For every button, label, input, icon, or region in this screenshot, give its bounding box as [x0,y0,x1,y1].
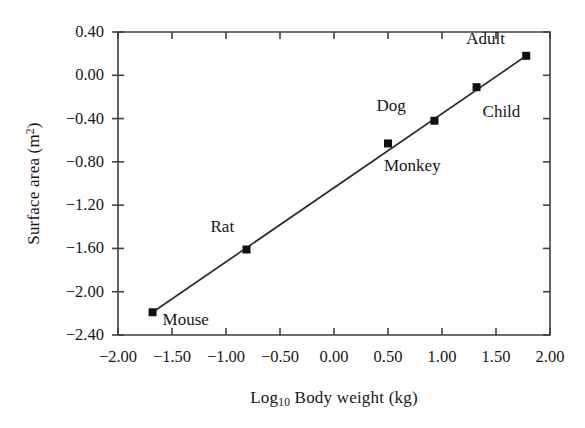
fit-line-path [153,56,527,312]
x-tick-label-4: 0.00 [320,347,349,367]
point-label-rat: Rat [211,217,235,237]
point-label-mouse: Mouse [163,310,209,330]
data-point-child [473,83,481,91]
point-label-dog: Dog [376,96,405,116]
x-axis-label: Log10 Body weight (kg) [118,388,550,409]
y-axis-label-base: Surface area (m [24,134,43,245]
data-point-adult [522,52,530,60]
data-point-mouse [149,308,157,316]
axes-frame [118,32,550,335]
y-tick-label-5: −1.60 [0,238,104,258]
x-tick-label-2: −1.00 [207,347,245,367]
x-axis-label-subscript: 10 [278,396,290,409]
y-tick-label-1: 0.00 [0,65,104,85]
axes-frame-path [118,32,550,335]
axis-ticks [112,32,550,335]
x-tick-label-0: −2.00 [99,347,137,367]
point-label-child: Child [483,102,521,122]
data-point-monkey [384,139,392,147]
x-axis-label-rest: Body weight (kg) [290,388,418,407]
y-tick-label-7: −2.40 [0,325,104,345]
y-tick-label-2: −0.40 [0,109,104,129]
chart-figure: Surface area (m2) Log10 Body weight (kg)… [0,0,585,428]
point-label-adult: Adult [466,29,505,49]
y-tick-label-4: −1.20 [0,195,104,215]
y-tick-label-0: 0.40 [0,22,104,42]
y-tick-label-3: −0.80 [0,152,104,172]
x-tick-label-3: −0.50 [261,347,299,367]
y-tick-label-6: −2.00 [0,282,104,302]
regression-line [153,56,527,312]
point-label-monkey: Monkey [384,156,441,176]
x-tick-label-1: −1.50 [153,347,191,367]
x-tick-label-6: 1.00 [428,347,457,367]
data-point-dog [430,117,438,125]
y-axis-label-exponent: 2 [24,128,37,134]
data-point-rat [243,246,251,254]
x-tick-label-5: 0.50 [374,347,403,367]
x-tick-label-8: 2.00 [536,347,565,367]
x-axis-label-base: Log [250,388,278,407]
x-tick-label-7: 1.50 [482,347,511,367]
